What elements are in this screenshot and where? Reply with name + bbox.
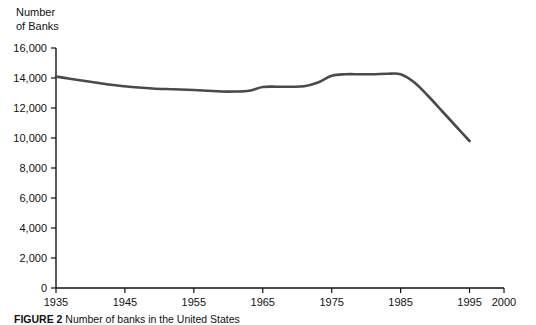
y-tick-label: 12,000 <box>13 102 47 114</box>
figure-caption: FIGURE 2 Number of banks in the United S… <box>14 313 240 325</box>
y-tick-label: 0 <box>41 282 47 294</box>
y-tick-label: 2,000 <box>19 252 47 264</box>
x-tick-label: 1955 <box>182 296 206 308</box>
x-tick-label: 2000 <box>492 296 516 308</box>
y-tick-label: 6,000 <box>19 192 47 204</box>
figure-caption-text: Number of banks in the United States <box>65 313 240 325</box>
x-tick-label: 1965 <box>251 296 275 308</box>
x-tick-label: 1985 <box>388 296 412 308</box>
data-series-line <box>56 73 470 141</box>
series-line-number-of-banks <box>56 73 470 141</box>
x-tick-label: 1975 <box>319 296 343 308</box>
figure-caption-label: FIGURE 2 <box>14 313 62 325</box>
y-tick-label: 8,000 <box>19 162 47 174</box>
y-tick-label: 16,000 <box>13 42 47 54</box>
y-axis: 16,00014,00012,00010,0008,0006,0004,0002… <box>13 42 56 294</box>
y-tick-label: 4,000 <box>19 222 47 234</box>
x-axis: 19351945195519651975198519952000 <box>44 288 516 308</box>
x-tick-label: 1995 <box>457 296 481 308</box>
figure-container: Number of Banks 16,00014,00012,00010,000… <box>0 0 536 325</box>
y-tick-label: 14,000 <box>13 72 47 84</box>
x-tick-label: 1945 <box>113 296 137 308</box>
y-tick-label: 10,000 <box>13 132 47 144</box>
line-chart-plot: 16,00014,00012,00010,0008,0006,0004,0002… <box>0 0 536 325</box>
x-tick-label: 1935 <box>44 296 68 308</box>
